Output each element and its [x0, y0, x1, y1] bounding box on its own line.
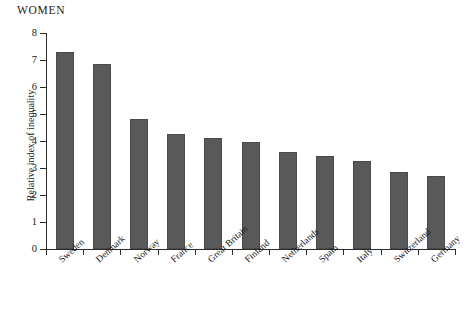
x-tick-mark: [418, 250, 419, 255]
bar: [204, 138, 222, 249]
bar: [167, 134, 185, 249]
y-tick-label: 3: [32, 161, 37, 174]
bar: [93, 64, 111, 249]
bar: [353, 161, 371, 249]
x-tick-mark: [455, 250, 456, 255]
x-tick-mark: [343, 250, 344, 255]
y-tick-label: 7: [32, 53, 37, 66]
bar: [279, 152, 297, 249]
y-tick-label: 0: [32, 242, 37, 255]
bar: [427, 176, 445, 249]
x-tick-mark: [269, 250, 270, 255]
bar-chart-figure: WOMEN Relative index of inequality 01234…: [0, 0, 474, 311]
x-tick-mark: [381, 250, 382, 255]
x-tick-mark: [83, 250, 84, 255]
bar: [390, 172, 408, 249]
plot-area: [46, 33, 455, 249]
y-tick-label: 4: [32, 134, 37, 147]
page-title: WOMEN: [17, 4, 65, 16]
x-tick-mark: [158, 250, 159, 255]
x-tick-mark: [195, 250, 196, 255]
y-tick-label: 8: [32, 26, 37, 39]
x-tick-mark: [46, 250, 47, 255]
y-tick-label: 5: [32, 107, 37, 120]
bar: [130, 119, 148, 249]
x-tick-mark: [306, 250, 307, 255]
y-tick-label: 6: [32, 80, 37, 93]
bar: [56, 52, 74, 249]
x-tick-mark: [120, 250, 121, 255]
x-tick-mark: [232, 250, 233, 255]
y-tick-label: 2: [32, 188, 37, 201]
y-tick-label: 1: [32, 215, 37, 228]
